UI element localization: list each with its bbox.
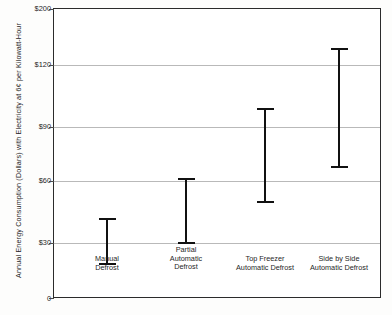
- tick-mark-60: [49, 181, 54, 182]
- x-axis-label-manual-defrost: Manual Defrost: [70, 255, 144, 272]
- y-tick-label-200: $200: [35, 4, 51, 13]
- tick-mark-120: [49, 65, 54, 66]
- gridline-60: [54, 181, 380, 182]
- y-axis-tick-group: $200 $120 $90 $60 $30 0: [0, 8, 51, 298]
- error-bar-stem: [264, 108, 267, 203]
- energy-consumption-chart: Annual Energy Consumption (Dollars) with…: [0, 0, 392, 315]
- tick-mark-90: [49, 127, 54, 128]
- error-bar-cap-low: [178, 242, 195, 244]
- error-bar-stem: [185, 178, 188, 244]
- error-bar-cap-low: [257, 201, 274, 203]
- plot-area: Manual Defrost Partial Automatic Defrost…: [53, 8, 381, 298]
- y-tick-label-120: $120: [35, 60, 51, 69]
- y-tick-label-30: $30: [39, 238, 51, 247]
- tick-mark-30: [49, 243, 54, 244]
- error-bar-stem: [338, 48, 341, 168]
- gridline-120: [54, 65, 380, 66]
- error-bar-cap-low: [331, 166, 348, 168]
- x-axis-label-side-by-side-automatic-defrost: Side by Side Automatic Defrost: [285, 255, 392, 272]
- gridline-90: [54, 127, 380, 128]
- y-tick-label-90: $90: [39, 122, 51, 131]
- y-tick-label-60: $60: [39, 176, 51, 185]
- tick-mark-200: [49, 9, 54, 10]
- tick-mark-0: [49, 298, 54, 299]
- gridline-30: [54, 243, 380, 244]
